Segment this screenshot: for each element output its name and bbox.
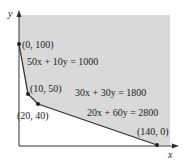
y-axis-label: y: [7, 8, 13, 19]
vertex-point: [155, 143, 159, 147]
constraint-label: 50x + 10y = 1000: [27, 56, 98, 67]
feasible-region-diagram: y x (0, 100) (10, 50) (20, 40) (140, 0) …: [0, 0, 184, 163]
vertex-label: (10, 50): [30, 83, 62, 95]
vertex-point: [36, 102, 40, 106]
vertex-point: [17, 42, 21, 46]
x-axis-arrow-icon: [172, 144, 179, 149]
vertex-label: (0, 100): [22, 39, 54, 51]
y-axis-arrow-icon: [17, 10, 22, 17]
constraint-label: 20x + 60y = 2800: [87, 107, 158, 118]
vertex-label: (20, 40): [17, 110, 49, 122]
constraint-label: 30x + 30y = 1800: [75, 87, 146, 98]
x-axis-label: x: [167, 149, 173, 160]
vertex-label: (140, 0): [137, 126, 169, 138]
